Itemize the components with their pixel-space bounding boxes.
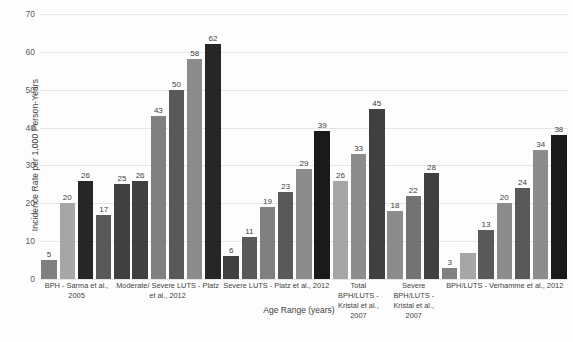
bar[interactable]: 20 [497, 203, 512, 279]
bar[interactable]: 18 [387, 211, 402, 279]
bar-group: 182228 [386, 14, 441, 279]
bar[interactable]: 23 [278, 192, 293, 279]
bar[interactable]: 43 [151, 116, 166, 279]
bar-slot: 50 [167, 14, 185, 279]
bar-value-label: 5 [47, 251, 51, 259]
bar-slot: 26 [331, 14, 349, 279]
bar-value-label: 19 [263, 198, 272, 206]
bar-slot: 17 [95, 14, 113, 279]
bar-value-label: 34 [536, 141, 545, 149]
bar-value-label: 39 [318, 122, 327, 130]
bar-value-label: 22 [409, 187, 418, 195]
bar-value-label: 58 [190, 50, 199, 58]
bar-value-label: 26 [336, 172, 345, 180]
bar-slot: 45 [368, 14, 386, 279]
bar-slot: 11 [240, 14, 258, 279]
y-axis-tick-label: 20 [26, 198, 35, 208]
bar[interactable]: 45 [369, 109, 384, 279]
bar-slot: 20 [495, 14, 513, 279]
x-axis-category-label: Total BPH/LUTS - Kristal et al., 2007 [331, 281, 386, 321]
bar-slot: 19 [258, 14, 276, 279]
y-axis-tick-label: 0 [30, 274, 35, 284]
bar[interactable]: 62 [205, 44, 220, 279]
bar-group: 252643505862 [113, 14, 222, 279]
bar[interactable]: 26 [132, 181, 147, 279]
x-axis-category-label: BPH - Sarma et al., 2005 [40, 281, 113, 321]
bar-value-label: 11 [245, 228, 253, 236]
bar[interactable]: 5 [41, 260, 56, 279]
bar-slot: 34 [532, 14, 550, 279]
bar-value-label: 50 [172, 81, 181, 89]
bar-value-label: 13 [482, 221, 491, 229]
x-axis-category-label: Severe BPH/LUTS - Kristal et al., 2007 [386, 281, 441, 321]
bar[interactable] [460, 253, 475, 280]
bar-slot: 43 [149, 14, 167, 279]
bar-slot: 39 [313, 14, 331, 279]
x-axis-category-label: BPH/LUTS - Verhamme et al., 2012 [441, 281, 568, 321]
bar-group: 61119232939 [222, 14, 331, 279]
bar-group: 263345 [331, 14, 386, 279]
bar[interactable]: 22 [406, 196, 421, 279]
x-axis-title: Age Range (years) [0, 305, 573, 315]
incidence-rate-bar-chart: Incidence Rate per 1,000 Person-Years 01… [0, 0, 573, 342]
bar-slot: 33 [350, 14, 368, 279]
bar-value-label: 18 [391, 202, 400, 210]
x-axis-category-label: Moderate/ Severe LUTS - Platz et al., 20… [113, 281, 222, 321]
bar[interactable]: 25 [114, 184, 129, 279]
bar[interactable]: 26 [78, 181, 93, 279]
gridline-0: 0 [40, 279, 568, 280]
bar[interactable]: 38 [551, 135, 566, 279]
bar[interactable]: 28 [424, 173, 439, 279]
bar-value-label: 17 [99, 206, 108, 214]
bar[interactable]: 20 [60, 203, 75, 279]
bar[interactable]: 13 [478, 230, 493, 279]
bar-slot: 3 [441, 14, 459, 279]
bar[interactable]: 17 [96, 215, 111, 279]
bar[interactable]: 29 [296, 169, 311, 279]
bar-slot: 26 [131, 14, 149, 279]
bar-slot: 13 [477, 14, 495, 279]
bar-value-label: 6 [229, 247, 233, 255]
bar-value-label: 23 [281, 183, 290, 191]
bar-slot: 24 [513, 14, 531, 279]
bar-value-label: 20 [63, 194, 72, 202]
bar-slot: 26 [76, 14, 94, 279]
bar-slot: 28 [422, 14, 440, 279]
y-axis-tick-label: 70 [26, 9, 35, 19]
bar[interactable]: 39 [314, 131, 329, 279]
bar-slot: 58 [186, 14, 204, 279]
bar-slot: 18 [386, 14, 404, 279]
bar-slot: 6 [222, 14, 240, 279]
bar-value-label: 43 [154, 107, 163, 115]
bar-value-label: 29 [300, 160, 309, 168]
y-axis-tick-label: 60 [26, 47, 35, 57]
bar[interactable]: 3 [442, 268, 457, 279]
bar-value-label: 25 [117, 175, 126, 183]
bar[interactable]: 58 [187, 59, 202, 279]
bar-value-label: 33 [354, 145, 363, 153]
bar-value-label: 24 [518, 179, 527, 187]
bar-slot: 23 [277, 14, 295, 279]
bar-value-label: 28 [427, 164, 436, 172]
bar[interactable]: 33 [351, 154, 366, 279]
bar[interactable]: 50 [169, 90, 184, 279]
bar-value-label: 3 [447, 259, 451, 267]
bar[interactable]: 26 [333, 181, 348, 279]
y-axis-tick-label: 10 [26, 236, 35, 246]
bar-groups: 5202617252643505862611192329392633451822… [40, 14, 568, 279]
bar[interactable]: 34 [533, 150, 548, 279]
bar-slot: 25 [113, 14, 131, 279]
bar-slot: 29 [295, 14, 313, 279]
bar-value-label: 45 [372, 100, 381, 108]
bar-slot [459, 14, 477, 279]
bar[interactable]: 24 [515, 188, 530, 279]
bar[interactable]: 6 [223, 256, 238, 279]
bar-value-label: 38 [554, 126, 563, 134]
bar[interactable]: 19 [260, 207, 275, 279]
bar-group: 31320243438 [441, 14, 568, 279]
bar-slot: 62 [204, 14, 222, 279]
y-axis-tick-label: 40 [26, 123, 35, 133]
bar[interactable]: 11 [242, 237, 257, 279]
plot-area: 010203040506070 520261725264350586261119… [40, 14, 568, 279]
bar-slot: 22 [404, 14, 422, 279]
